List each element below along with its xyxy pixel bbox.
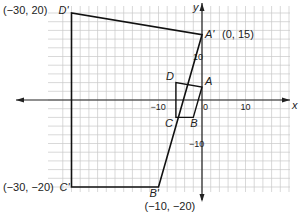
vertex-label-d: D — [166, 70, 174, 82]
x-axis-left-arrow-icon — [16, 98, 24, 103]
x-axis-label: x — [291, 99, 298, 111]
vertex-label-b-prime: B' — [150, 187, 160, 199]
y-tick-label: −10 — [189, 139, 204, 149]
coordinate-label: (−30, −20) — [3, 181, 54, 193]
y-axis-label: y — [192, 1, 200, 13]
vertex-label-c: C — [165, 117, 173, 129]
y-axis-down-arrow-icon — [200, 194, 205, 202]
coordinate-label: (−30, 20) — [3, 4, 47, 16]
coordinate-label: (−10, −20) — [145, 200, 196, 212]
vertex-label-a-prime: A' — [204, 28, 215, 40]
coordinate-label: (0, 15) — [222, 28, 254, 40]
vertex-label-b: B — [190, 117, 197, 129]
x-tick-label: 10 — [241, 102, 251, 112]
vertex-label-d-prime: D' — [59, 4, 70, 16]
vertex-label-c-prime: C' — [60, 181, 71, 193]
x-tick-label: 0 — [203, 102, 208, 112]
x-tick-label: −10 — [151, 102, 166, 112]
coordinate-plane: xy−1001010−10ABCDA'(0, 15)B'(−10, −20)C'… — [0, 0, 303, 218]
vertex-label-a: A — [204, 75, 212, 87]
y-axis-up-arrow-icon — [200, 3, 205, 11]
